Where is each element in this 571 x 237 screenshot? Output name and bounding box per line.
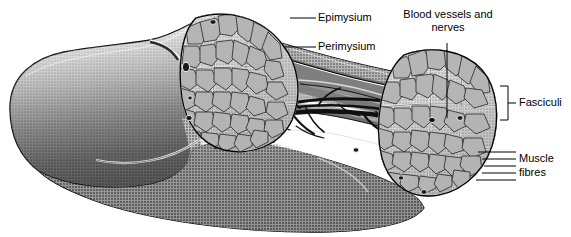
label-fasciculi: Fasciculi [519, 96, 562, 109]
label-muscle-fibres-line1: Muscle [519, 152, 554, 165]
label-epimysium: Epimysium [318, 11, 372, 24]
bracket-fasciculi [500, 86, 508, 120]
label-blood-vessels-nerves-line1: Blood vessels and [396, 8, 500, 21]
muscle-illustration [0, 0, 571, 237]
label-perimysium: Perimysium [318, 40, 375, 53]
muscle-structure-diagram: Epimysium Perimysium Blood vessels and n… [0, 0, 571, 237]
label-blood-vessels-nerves-line2: nerves [396, 21, 500, 34]
label-muscle-fibres-line2: fibres [519, 166, 546, 179]
